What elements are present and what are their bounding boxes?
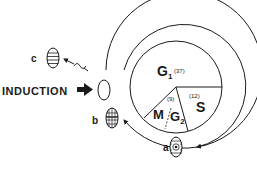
- induction-arrow-icon: [77, 83, 93, 96]
- cell-c-exit-arrow: [64, 59, 88, 71]
- induced-cell: [98, 80, 110, 100]
- phase-g1-duration: (37): [174, 68, 185, 74]
- cell-a-icon: [170, 137, 182, 157]
- cell-c-icon: [47, 48, 59, 68]
- cell-a-label: a: [163, 142, 169, 153]
- cell-b-label: b: [92, 115, 98, 126]
- phase-g1-label: G1: [157, 63, 173, 81]
- induction-label: INDUCTION: [2, 85, 68, 97]
- phase-mg2-duration: (9): [167, 96, 174, 102]
- cell-b-icon: [106, 108, 118, 128]
- cell-c-label: c: [31, 53, 37, 64]
- cell-cycle-diagram: G1 (37) (12) S (9) M G2 INDUCTION c b: [0, 0, 257, 170]
- phase-m-label: M: [153, 107, 164, 122]
- middle-cycle-arrow: [124, 24, 246, 147]
- phase-s-label: S: [196, 99, 205, 115]
